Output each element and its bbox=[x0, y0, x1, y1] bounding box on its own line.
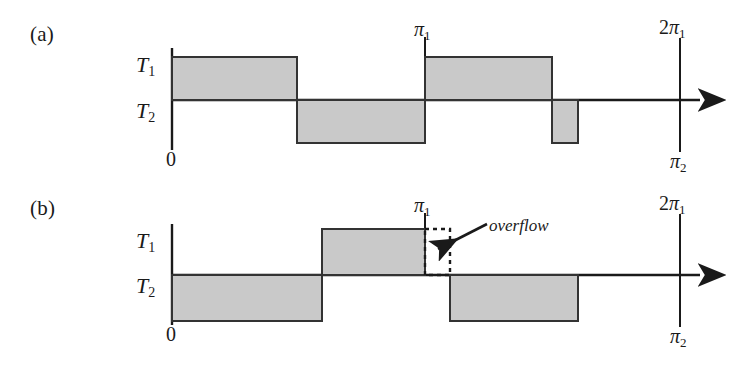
bar-b-2 bbox=[322, 229, 425, 275]
figure-canvas: (a) T1 T2 0 π1 2π1 π2 (b) T1 T2 0 π1 2π1… bbox=[0, 0, 731, 366]
panel-b-bars bbox=[172, 229, 578, 321]
bar-a-4 bbox=[552, 100, 578, 143]
overflow-annotation-arrow bbox=[438, 224, 487, 249]
figure-vector-layer bbox=[0, 0, 731, 366]
bar-a-2 bbox=[297, 100, 425, 143]
bar-b-1 bbox=[172, 275, 322, 321]
panel-a-bars bbox=[172, 57, 578, 143]
bar-b-3 bbox=[450, 275, 578, 321]
bar-a-1 bbox=[172, 57, 297, 100]
bar-a-3 bbox=[425, 57, 552, 100]
bar-b-overflow bbox=[425, 229, 450, 275]
